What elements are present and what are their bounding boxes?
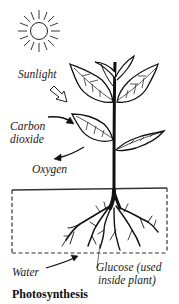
label-glucose-line2: inside plant) bbox=[98, 274, 156, 287]
label-carbon-dioxide-line1: Carbon bbox=[10, 120, 45, 133]
label-water: Water bbox=[12, 266, 39, 279]
label-sunlight: Sunlight bbox=[18, 68, 56, 81]
roots bbox=[62, 190, 158, 250]
carbon-dioxide-arrow-icon bbox=[48, 117, 74, 124]
sunlight-arrow-icon bbox=[50, 86, 67, 102]
water-arrow-icon bbox=[46, 255, 78, 268]
sun-icon bbox=[18, 10, 60, 52]
oxygen-arrow-icon bbox=[54, 147, 84, 161]
photosynthesis-diagram: Sunlight Carbon dioxide Oxygen Water Glu… bbox=[0, 0, 179, 304]
diagram-title: Photosynthesis bbox=[12, 287, 88, 302]
label-glucose-line1: Glucose (used bbox=[96, 261, 161, 274]
label-oxygen: Oxygen bbox=[32, 163, 67, 176]
label-carbon-dioxide-line2: dioxide bbox=[10, 133, 44, 146]
plant-illustration bbox=[70, 56, 164, 192]
